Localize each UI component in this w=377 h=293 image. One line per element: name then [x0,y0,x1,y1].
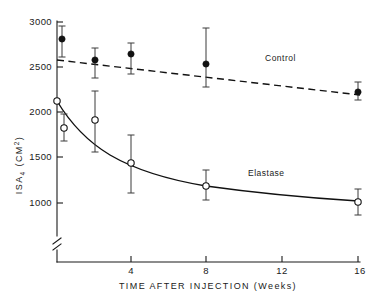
control-error-bars [59,26,362,100]
data-point [203,61,209,67]
data-point [355,199,361,205]
series-label-control: Control [265,53,296,63]
x-tick-label-16: 16 [354,265,365,276]
data-point [355,89,361,95]
series-control: Control [57,26,362,100]
y-tick-label-1000: 1000 [29,197,52,208]
y-tick-label-2000: 2000 [29,106,52,117]
line-chart: 3000 2500 2000 1500 1000 4 8 12 16 TIME … [0,0,377,293]
series-label-elastase: Elastase [248,168,285,178]
y-axis-title-base: ISA [14,175,24,194]
y-axis-title-unit-open: (CM [14,145,24,170]
data-point [203,183,209,189]
x-tick-label-12: 12 [276,265,287,276]
y-axis-break [53,238,61,250]
svg-text:ISA4 (CM2): ISA4 (CM2) [13,136,27,194]
y-tick-label-1500: 1500 [29,151,52,162]
data-point [59,36,65,42]
elastase-markers [54,98,361,205]
series-elastase: Elastase [54,91,362,215]
data-point [128,160,134,166]
data-point [92,57,98,63]
x-tick-label-4: 4 [128,265,134,276]
data-point [128,51,134,57]
x-axis-title: TIME AFTER INJECTION (Weeks) [119,281,297,291]
data-point [54,98,60,104]
data-point [92,117,98,123]
chart-figure: 3000 2500 2000 1500 1000 4 8 12 16 TIME … [0,0,377,293]
y-tick-label-3000: 3000 [29,16,52,27]
x-tick-label-8: 8 [203,265,209,276]
y-axis-ticks: 3000 2500 2000 1500 1000 [29,16,63,208]
y-axis-title-unit-close: ) [14,136,24,140]
y-axis-title: ISA4 (CM2) [13,136,27,194]
x-axis-ticks: 4 8 12 16 [128,256,366,276]
y-tick-label-2500: 2500 [29,61,52,72]
data-point [61,125,67,131]
